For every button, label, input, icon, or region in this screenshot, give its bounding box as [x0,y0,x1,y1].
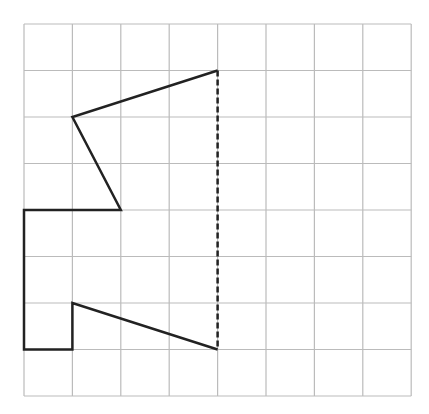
grid-figure [0,0,429,414]
